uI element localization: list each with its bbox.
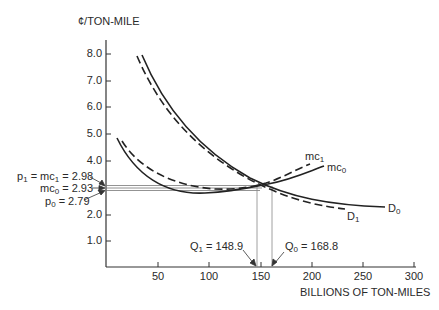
x-tick-label: 250 [348,271,378,282]
y-tick-label: 6.0 [72,101,102,112]
curve-label-d0: D0 [388,203,400,216]
quantity-arrows [243,250,284,266]
x-tick-label: 300 [399,271,429,282]
x-ticks [158,262,414,267]
y-tick-label: 1.0 [72,235,102,246]
y-tick-label: 8.0 [72,48,102,59]
curve-label-mc0: mc0 [327,162,346,175]
x-tick-label: 200 [297,271,327,282]
curve-mc0 [117,138,324,193]
curve-mc1 [122,141,310,189]
y-tick-label: 7.0 [72,75,102,86]
quantity-guide-lines [257,185,272,267]
x-tick-label: 50 [143,271,173,282]
x-tick-label: 150 [246,271,276,282]
curve-d1 [137,56,345,209]
annotation-q0: Q0 = 168.8 [285,241,338,254]
y-ticks [106,54,111,241]
annotation-p0: p0 = 2.79 [45,196,90,209]
y-tick-label: 2.0 [72,209,102,220]
chart-canvas [0,0,439,310]
curve-label-d1: D1 [347,211,359,224]
y-tick-label: 4.0 [72,155,102,166]
annotation-q1: Q1 = 148.9 [190,241,243,254]
y-tick-label: 5.0 [72,128,102,139]
y-axis-title: ¢/TON-MILE [78,16,140,27]
curve-label-mc1: mc1 [305,151,324,164]
x-tick-label: 100 [194,271,224,282]
x-axis-title: BILLIONS OF TON-MILES [300,287,430,298]
